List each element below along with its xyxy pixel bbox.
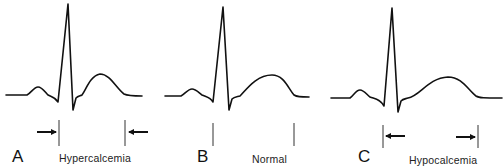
panel-letter-b: B (197, 147, 208, 166)
panel-a: A Hypercalcemia (6, 4, 148, 166)
panel-label-normal: Normal (252, 153, 287, 165)
ecg-trace-hypocalcemia (331, 8, 502, 112)
panel-letter-a: A (12, 147, 24, 166)
panel-label-hypocalcemia: Hypocalcemia (409, 154, 477, 166)
panel-c: C Hypocalcemia (331, 8, 502, 166)
panel-label-hypercalcemia: Hypercalcemia (59, 152, 131, 164)
panel-letter-c: C (358, 147, 370, 166)
ecg-calcium-figure: A Hypercalcemia B Normal C Hypocalcemia (0, 0, 503, 167)
ecg-trace-normal (165, 7, 309, 110)
panel-b: B Normal (165, 7, 309, 166)
ecg-trace-hypercalcemia (6, 4, 142, 110)
